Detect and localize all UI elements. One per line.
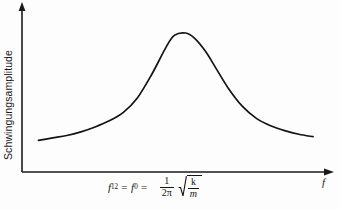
radicand-denominator: m xyxy=(188,188,199,200)
fraction-denominator: 2π xyxy=(160,187,174,199)
resonance-curve-figure: Schwingungsamplitude f f12 = f0 = 1 2π k… xyxy=(0,0,340,210)
radical-sign-icon xyxy=(178,175,187,197)
formula-equals-1: = xyxy=(121,181,127,193)
resonance-curve-path xyxy=(38,33,313,140)
pi-symbol: π xyxy=(167,187,172,198)
radicand-numerator: k xyxy=(189,177,198,188)
formula-lhs-subscript: 12 xyxy=(111,183,118,191)
y-axis-arrowhead xyxy=(19,2,26,11)
y-axis-label: Schwingungsamplitude xyxy=(0,0,16,210)
formula-equals-2: = xyxy=(141,181,147,193)
fraction-numerator: 1 xyxy=(162,176,171,187)
formula-mid-subscript: 0 xyxy=(134,183,137,191)
x-axis-label-text: f xyxy=(322,176,325,188)
y-axis-label-text: Schwingungsamplitude xyxy=(2,50,14,160)
formula-square-root: k m xyxy=(178,175,202,199)
x-axis-arrowhead xyxy=(324,168,334,175)
formula-fraction-one-over-two-pi: 1 2π xyxy=(160,176,174,198)
radicand-fraction-k-over-m: k m xyxy=(187,175,202,199)
resonance-frequency-formula: f12 = f0 = 1 2π k m xyxy=(108,175,202,199)
x-axis-label: f xyxy=(322,176,325,188)
